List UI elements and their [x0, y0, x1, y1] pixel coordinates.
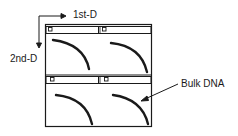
first-dimension-label: 1st-D [73, 10, 97, 20]
bulk-dna-pointer [141, 84, 178, 101]
second-dimension-label: 2nd-D [10, 54, 37, 64]
first-dimension-arrowhead-icon [61, 14, 66, 19]
middle-well-strip [46, 75, 152, 84]
sample-well-icon [51, 78, 55, 82]
second-dimension-arrowhead-icon [37, 43, 42, 48]
sample-well-icon [105, 78, 109, 82]
pointer-arrowhead-icon [141, 96, 149, 101]
sample-well-icon [103, 28, 107, 32]
bulk-dna-arc-top-right [111, 43, 147, 72]
two-dimensional-gel-diagram [0, 0, 238, 136]
bulk-dna-arc-bottom-left [56, 95, 92, 124]
bulk-dna-arc-top-left [53, 40, 89, 69]
sample-well-icon [49, 28, 53, 32]
top-well-strip [46, 27, 151, 34]
bulk-dna-arcs [53, 40, 148, 124]
bulk-dna-label: Bulk DNA [181, 79, 224, 89]
